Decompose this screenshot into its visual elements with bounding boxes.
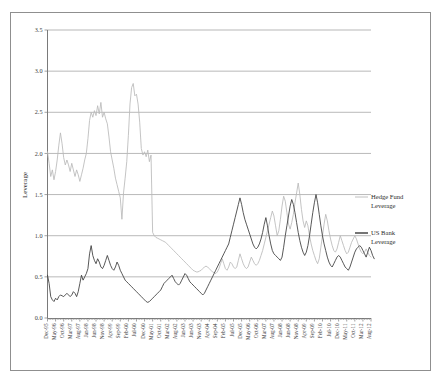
x-tick-label: Jul-00 bbox=[131, 323, 137, 336]
y-axis-tick-labels: 0.00.51.01.52.02.53.03.5 bbox=[35, 26, 43, 321]
legend-label: Hedge Fund bbox=[371, 193, 404, 200]
leverage-line-chart: 0.00.51.01.52.02.53.03.5 Dec-95May-96Oct… bbox=[0, 0, 443, 383]
x-axis-ticks bbox=[48, 318, 372, 322]
x-tick-label: Aug-02 bbox=[172, 323, 178, 339]
y-tick-label: 0.5 bbox=[35, 273, 43, 280]
x-tick-label: Dec-10 bbox=[334, 323, 340, 339]
x-tick-label: Mar-97 bbox=[67, 323, 73, 339]
x-axis-tick-labels: Dec-95May-96Oct-96Mar-97Aug-97Jan-98Jun-… bbox=[43, 323, 373, 340]
y-tick-label: 2.0 bbox=[35, 150, 43, 157]
x-tick-label: Jul-10 bbox=[326, 323, 332, 336]
x-tick-label: May-06 bbox=[245, 323, 251, 340]
x-tick-label: Jun-98 bbox=[91, 323, 97, 338]
x-tick-label: Sep-04 bbox=[212, 323, 218, 338]
y-tick-label: 2.5 bbox=[35, 108, 43, 115]
legend-label: Leverage bbox=[371, 202, 396, 209]
legend-label: Leverage bbox=[371, 238, 396, 245]
y-tick-label: 3.5 bbox=[35, 26, 43, 33]
x-tick-label: Oct-06 bbox=[253, 323, 259, 338]
x-tick-label: Mar-02 bbox=[164, 323, 170, 339]
x-tick-label: Nov-98 bbox=[99, 323, 105, 339]
x-tick-label: Apr-09 bbox=[301, 323, 307, 338]
x-tick-label: Jun-03 bbox=[188, 323, 194, 338]
y-tick-label: 3.0 bbox=[35, 67, 43, 74]
x-tick-label: May-96 bbox=[51, 323, 57, 340]
x-tick-label: Sep-99 bbox=[115, 323, 121, 338]
x-tick-label: May-11 bbox=[342, 323, 348, 340]
x-tick-label: Sep-09 bbox=[309, 323, 315, 338]
x-tick-label: Oct-96 bbox=[59, 323, 65, 338]
x-tick-label: Jan-03 bbox=[180, 323, 186, 337]
x-tick-label: Mar-12 bbox=[358, 323, 364, 339]
gridlines bbox=[48, 30, 372, 277]
y-axis-title: Leverage bbox=[21, 172, 29, 198]
y-tick-label: 1.5 bbox=[35, 191, 43, 198]
x-tick-label: Aug-07 bbox=[269, 323, 275, 339]
x-tick-label: Aug-97 bbox=[75, 323, 81, 339]
data-series-group bbox=[48, 83, 375, 302]
x-tick-label: Jan-98 bbox=[83, 323, 89, 337]
x-tick-label: Oct-01 bbox=[156, 323, 162, 338]
x-tick-label: Feb-10 bbox=[317, 323, 323, 338]
x-tick-label: Jun-08 bbox=[285, 323, 291, 338]
x-tick-label: Dec-05 bbox=[237, 323, 243, 339]
x-tick-label: Oct-11 bbox=[350, 323, 356, 338]
x-tick-label: Jan-08 bbox=[277, 323, 283, 337]
x-tick-label: Aug-12 bbox=[366, 323, 372, 339]
x-tick-label: Dec-95 bbox=[43, 323, 49, 339]
x-tick-label: Nov-03 bbox=[196, 323, 202, 339]
x-tick-label: Feb-05 bbox=[220, 323, 226, 338]
y-tick-label: 0.0 bbox=[35, 314, 43, 321]
x-tick-label: Apr-99 bbox=[107, 323, 113, 338]
series-line bbox=[48, 195, 375, 303]
y-tick-label: 1.0 bbox=[35, 232, 43, 239]
x-tick-label: Dec-00 bbox=[140, 323, 146, 339]
x-tick-label: Apr-04 bbox=[204, 323, 210, 338]
x-tick-label: May-01 bbox=[148, 323, 154, 340]
legend-label: US Bank bbox=[371, 229, 396, 236]
chart-legend: Hedge FundLeverageUS BankLeverage bbox=[355, 193, 404, 245]
x-tick-label: Nov-08 bbox=[293, 323, 299, 339]
x-tick-label: Mar-07 bbox=[261, 323, 267, 339]
x-tick-label: Jul-05 bbox=[229, 323, 235, 336]
x-tick-label: Feb-00 bbox=[123, 323, 129, 338]
